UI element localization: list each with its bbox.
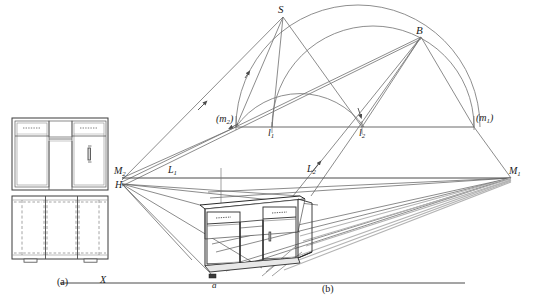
- label-m1-close: ): [490, 112, 493, 123]
- caption-subfigure-b: (b): [322, 283, 334, 294]
- ray-S-to-l1: [272, 17, 283, 127]
- front-elevation: [12, 118, 108, 190]
- label-ground-line: X: [100, 275, 106, 285]
- drop-m1-to-M1: [474, 127, 511, 178]
- label-l2-sub: 2: [362, 132, 365, 139]
- drop-m2-to-M2: [122, 127, 236, 178]
- label-m2-close: ): [230, 113, 233, 124]
- label-measuring-point-left: (m2): [216, 114, 233, 126]
- ground-contact-mark: [209, 274, 216, 278]
- diagram-svg: [0, 0, 534, 303]
- ray-B-to-L2-extended: [311, 37, 421, 196]
- perspective-desk-unit: [200, 196, 312, 272]
- label-vanishing-point-right: M1: [509, 166, 521, 178]
- label-m1-open: (m: [476, 112, 487, 123]
- caption-subfigure-a: (a): [57, 276, 68, 287]
- L1-arrow: [198, 102, 206, 110]
- ray-B-to-m1: [421, 37, 474, 127]
- label-L1-sub: 1: [174, 169, 177, 176]
- label-measuring-point-right: (m1): [476, 113, 493, 125]
- cast-shadow-stripes: [284, 178, 511, 270]
- ray-B-to-l2: [362, 37, 421, 127]
- plan-view: [12, 196, 108, 262]
- label-M1-sub: 1: [517, 170, 520, 177]
- diagram-canvas: (a) (b) S B (m2) (m1) l1 l2 L1 L2 M2 M1 …: [0, 0, 534, 303]
- ray-B-to-H-upper: [122, 37, 421, 182]
- subfigure-b-perspective: [60, 5, 511, 283]
- label-ground-point-a: a: [212, 281, 217, 290]
- light-ray-L1: [122, 17, 283, 180]
- label-m2-open: (m: [216, 113, 227, 124]
- label-L2-sub: 2: [313, 168, 316, 175]
- label-l1-sub: 1: [271, 132, 274, 139]
- arc-l1-to-m1: [272, 26, 474, 127]
- label-vanishing-point-left: M2: [114, 166, 126, 178]
- label-M2-sub: 2: [122, 170, 125, 177]
- label-station-height: H: [115, 180, 122, 190]
- ray-S-to-l2: [283, 17, 362, 127]
- label-sun-point: S: [278, 4, 284, 15]
- ray-B-to-H-lower: [122, 39, 421, 186]
- label-small-l2: l2: [359, 128, 365, 140]
- label-big-L2: L2: [307, 164, 316, 176]
- label-sun-base-point: B: [416, 25, 423, 36]
- label-big-L1: L1: [168, 165, 177, 177]
- label-small-l1: l1: [268, 128, 274, 140]
- subfigure-a-orthographic: [12, 118, 108, 262]
